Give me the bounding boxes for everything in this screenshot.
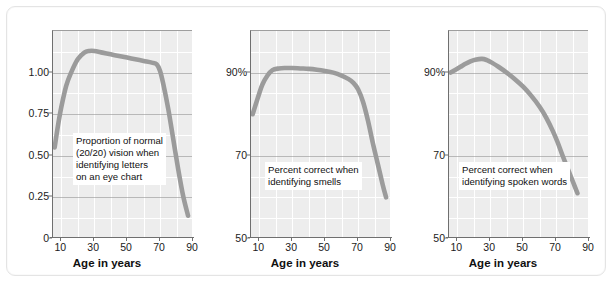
y-tick-mark	[246, 154, 250, 155]
x-axis-line-0	[50, 237, 194, 238]
x-tick-mark	[324, 237, 325, 241]
annotation-callout-0: Proportion of normal (20/20) vision when…	[73, 133, 166, 185]
x-tick-mark	[555, 237, 556, 241]
chart-panel-1: 507090%1030507090Age in yearsPercent cor…	[205, 7, 405, 277]
x-tick-mark	[258, 237, 259, 241]
data-curve-1	[251, 31, 390, 238]
plot-area-1	[250, 30, 390, 238]
y-tick-mark	[246, 238, 250, 239]
plot-area-2	[448, 30, 588, 238]
y-tick-mark	[246, 71, 250, 72]
x-tick-mark	[489, 237, 490, 241]
annotation-callout-2: Percent correct when identifying spoken …	[459, 162, 570, 190]
x-tick-mark	[291, 237, 292, 241]
y-tick-mark	[444, 154, 448, 155]
y-tick-mark	[444, 71, 448, 72]
chart-panel-2: 507090%1030507090Age in yearsPercent cor…	[403, 7, 603, 277]
x-axis-title-2: Age in years	[403, 257, 603, 269]
y-tick-label: 1.00	[0, 66, 49, 77]
figure-frame: 00.250.500.751.001030507090Age in yearsP…	[6, 6, 606, 276]
x-tick-mark	[390, 237, 391, 241]
x-tick-mark	[357, 237, 358, 241]
y-tick-mark	[48, 113, 52, 114]
panel-row: 00.250.500.751.001030507090Age in yearsP…	[7, 7, 607, 277]
y-tick-mark	[48, 71, 52, 72]
x-axis-title-0: Age in years	[7, 257, 207, 269]
y-tick-mark	[48, 154, 52, 155]
x-tick-mark	[159, 237, 160, 241]
x-axis-title-1: Age in years	[205, 257, 405, 269]
y-tick-label: 0.25	[0, 191, 49, 202]
y-tick-mark	[48, 196, 52, 197]
x-tick-mark	[192, 237, 193, 241]
y-tick-mark	[48, 238, 52, 239]
x-tick-mark	[93, 237, 94, 241]
y-tick-label: 0.75	[0, 108, 49, 119]
chart-panel-0: 00.250.500.751.001030507090Age in yearsP…	[7, 7, 207, 277]
annotation-callout-1: Percent correct when identifying smells	[265, 162, 362, 190]
x-tick-mark	[588, 237, 589, 241]
y-tick-label: 70	[195, 150, 247, 161]
x-tick-mark	[126, 237, 127, 241]
x-axis-line-1	[248, 237, 392, 238]
y-tick-label: 0.50	[0, 150, 49, 161]
x-tick-mark	[60, 237, 61, 241]
data-curve-2	[449, 31, 588, 238]
y-tick-label: 90%	[195, 66, 247, 77]
y-tick-mark	[444, 238, 448, 239]
x-axis-line-2	[446, 237, 590, 238]
y-tick-label: 90%	[393, 66, 445, 77]
x-tick-mark	[522, 237, 523, 241]
y-tick-label: 70	[393, 150, 445, 161]
x-tick-mark	[456, 237, 457, 241]
x-tick-label: 90	[568, 242, 608, 253]
